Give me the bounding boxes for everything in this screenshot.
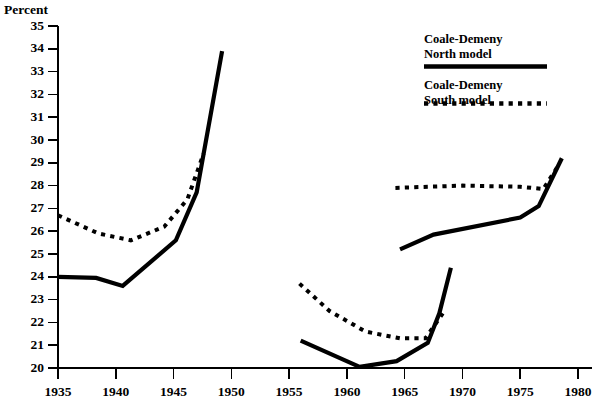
legend-entry-0-line2: North model	[424, 47, 492, 61]
x-tick-label-1965: 1965	[391, 384, 418, 399]
chart-root: Percent 20212223242526272829303132333435…	[0, 0, 610, 402]
x-tick-label-1945: 1945	[160, 384, 187, 399]
series-south-segment-1	[300, 284, 443, 339]
y-tick-label-21: 21	[31, 337, 45, 352]
y-tick-label-35: 35	[31, 18, 45, 33]
y-tick-label-33: 33	[31, 63, 45, 78]
x-tick-label-1940: 1940	[102, 384, 129, 399]
x-tick-label-1955: 1955	[276, 384, 303, 399]
series-north-segment-2	[400, 158, 562, 249]
y-tick-label-28: 28	[31, 177, 45, 192]
x-tick-label-1970: 1970	[449, 384, 476, 399]
line-chart-plot: Percent 20212223242526272829303132333435…	[0, 0, 610, 402]
y-tick-label-34: 34	[31, 40, 45, 55]
x-tick-label-1935: 1935	[45, 384, 72, 399]
y-tick-label-32: 32	[31, 86, 45, 101]
x-axis-tick-labels: 1935194019451950195519601965197019751980	[45, 384, 592, 399]
y-tick-label-27: 27	[31, 200, 45, 215]
series-south-segment-2	[395, 167, 557, 189]
y-axis-title: Percent	[4, 2, 48, 17]
y-tick-label-24: 24	[31, 268, 45, 283]
x-tick-label-1975: 1975	[507, 384, 534, 399]
x-tick-label-1980: 1980	[565, 384, 592, 399]
y-tick-label-30: 30	[31, 132, 45, 147]
chart-legend: Coale-Demeny North model Coale-Demeny So…	[424, 32, 547, 107]
y-tick-label-23: 23	[31, 291, 45, 306]
x-axis-ticks	[58, 368, 578, 379]
legend-entry-1-line1: Coale-Demeny	[424, 78, 503, 92]
y-tick-label-29: 29	[31, 154, 45, 169]
series-north-segment-1	[301, 268, 451, 367]
y-tick-label-22: 22	[31, 314, 45, 329]
y-tick-label-20: 20	[31, 360, 45, 375]
y-tick-label-26: 26	[31, 223, 45, 238]
x-tick-label-1950: 1950	[218, 384, 245, 399]
y-axis-tick-labels: 20212223242526272829303132333435	[31, 18, 45, 375]
y-tick-label-25: 25	[31, 246, 45, 261]
legend-entry-0-line1: Coale-Demeny	[424, 32, 503, 46]
y-axis-ticks	[48, 26, 58, 368]
x-tick-label-1960: 1960	[333, 384, 360, 399]
y-tick-label-31: 31	[31, 109, 45, 124]
